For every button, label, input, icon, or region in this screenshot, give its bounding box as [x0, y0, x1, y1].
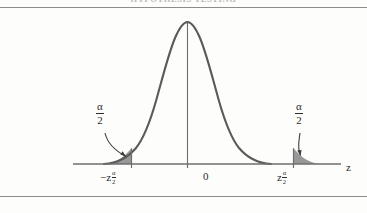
running-head-caption: HYPOTHESIS TESTING — [0, 0, 367, 5]
alpha-right-numerator: α — [295, 101, 303, 114]
negative-sub-numerator: α — [112, 170, 116, 178]
callout-arrowhead-left — [120, 151, 126, 156]
positive-sub-numerator: α — [282, 170, 286, 178]
axis-label-negative-critical-value: −z α 2 — [100, 170, 116, 185]
bottom-rule — [0, 196, 367, 197]
negative-z-base: z — [106, 171, 111, 183]
figure-panel: HYPOTHESIS TESTING α 2 α — [0, 0, 367, 213]
alpha-left-denominator: 2 — [96, 114, 104, 127]
alpha-right-denominator: 2 — [295, 114, 303, 127]
x-axis-name: z — [346, 161, 351, 173]
alpha-over-two-label-left: α 2 — [96, 101, 104, 127]
axis-label-zero: 0 — [203, 170, 209, 182]
shaded-region-lower-tail — [73, 148, 132, 164]
positive-z-base: z — [277, 171, 282, 183]
alpha-left-numerator: α — [96, 101, 104, 114]
positive-sub-denominator: 2 — [282, 178, 286, 185]
alpha-over-two-label-right: α 2 — [295, 101, 303, 127]
axis-label-positive-critical-value: z α 2 — [277, 170, 287, 185]
negative-sub-denominator: 2 — [112, 178, 116, 185]
normal-distribution-chart — [0, 7, 367, 196]
